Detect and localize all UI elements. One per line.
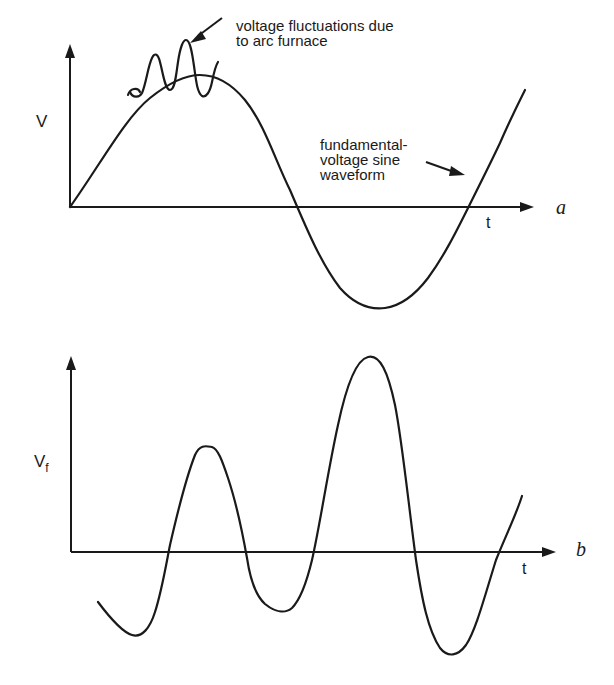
arc-furnace-fluctuation-waveform <box>130 40 218 97</box>
fundamental-annotation-line2: voltage sine <box>320 152 400 167</box>
fundamental-annotation-line3: waveform <box>320 167 385 182</box>
flicker-voltage-waveform <box>98 357 522 655</box>
fluctuation-annotation-line2: to arc furnace <box>236 33 328 48</box>
panel-b <box>66 356 556 654</box>
panel-a-x-arrow-icon <box>520 202 534 212</box>
fluctuation-annotation-line1: voltage fluctuations due <box>236 18 394 33</box>
fundamental-pointer-arrow-icon <box>449 166 465 176</box>
panel-a-x-axis-label: t <box>486 214 490 232</box>
panel-a-y-arrow-icon <box>65 44 75 58</box>
panel-b-label: b <box>576 538 586 561</box>
figure-canvas <box>0 0 614 685</box>
fundamental-pointer-line <box>426 162 454 172</box>
panel-a-label: a <box>556 196 566 219</box>
fluctuation-loop <box>128 89 140 95</box>
panel-a <box>65 18 534 308</box>
fundamental-sine-waveform <box>70 75 525 308</box>
panel-a-y-axis-label: V <box>36 112 47 132</box>
panel-b-y-axis-label-main: V <box>34 452 45 471</box>
panel-b-x-axis-label: t <box>522 560 526 578</box>
panel-b-y-arrow-icon <box>66 356 76 370</box>
panel-b-y-axis-label: Vf <box>34 452 49 472</box>
fundamental-annotation-line1: fundamental- <box>320 137 408 152</box>
panel-b-y-axis-label-subscript: f <box>45 461 48 475</box>
panel-b-x-arrow-icon <box>542 547 556 557</box>
